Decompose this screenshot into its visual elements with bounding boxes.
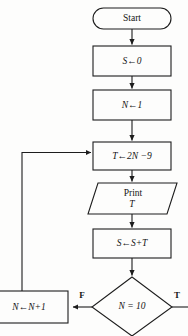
start-label: Start xyxy=(123,13,141,23)
node-init-sum: S←0 xyxy=(93,46,171,76)
node-decision: N = 10 xyxy=(92,277,172,336)
print-t-label-line1: Print xyxy=(124,188,143,198)
node-compute-t: T←2N −9 xyxy=(93,142,171,170)
node-start: Start xyxy=(93,8,171,29)
init-sum-label: S←0 xyxy=(123,56,142,66)
node-accumulate: S←S+T xyxy=(93,229,171,258)
increment-n-label: N←N+1 xyxy=(11,302,45,312)
flowchart-page: Start S←0 N←1 T←2N −9 Print T xyxy=(0,0,188,336)
branch-label-true: T xyxy=(174,290,180,300)
node-increment-n: N←N+1 xyxy=(0,291,68,323)
init-n-label: N←1 xyxy=(121,100,143,110)
decision-label: N = 10 xyxy=(118,301,146,311)
node-init-n: N←1 xyxy=(93,90,171,120)
branch-label-false: F xyxy=(79,290,85,300)
flowchart-canvas: Start S←0 N←1 T←2N −9 Print T xyxy=(0,0,188,336)
compute-t-label: T←2N −9 xyxy=(112,151,152,161)
print-t-label-line2: T xyxy=(129,199,135,209)
connector-loopback-to-compute-t xyxy=(22,153,91,292)
accumulate-label: S←S+T xyxy=(117,238,148,248)
node-print-t: Print T xyxy=(88,183,177,214)
